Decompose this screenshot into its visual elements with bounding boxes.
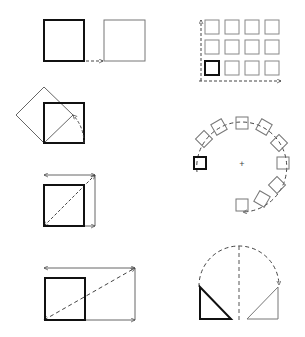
source-square bbox=[45, 278, 85, 320]
grid-source-square bbox=[205, 61, 219, 75]
center-marker: + bbox=[239, 159, 244, 169]
panel-polar-array: + bbox=[194, 117, 289, 212]
panel-rotate bbox=[16, 87, 84, 143]
source-square bbox=[44, 185, 84, 226]
stretch-diagonal bbox=[44, 268, 135, 320]
grid-squares bbox=[205, 20, 279, 75]
source-square bbox=[44, 20, 84, 61]
mirror-arc bbox=[199, 246, 279, 287]
panel-grid-array bbox=[199, 20, 281, 81]
panel-scale-non-uniform bbox=[44, 268, 135, 320]
panel-mirror bbox=[199, 246, 279, 322]
rotation-arc bbox=[73, 115, 84, 143]
transformations-diagram: + bbox=[0, 0, 305, 337]
panel-scale-uniform bbox=[44, 175, 95, 226]
translated-square bbox=[104, 20, 145, 61]
source-triangle bbox=[200, 287, 231, 319]
panel-translate bbox=[44, 20, 145, 61]
mirrored-triangle bbox=[247, 287, 278, 319]
polar-source-square bbox=[194, 157, 206, 169]
scale-diagonal bbox=[44, 175, 95, 226]
